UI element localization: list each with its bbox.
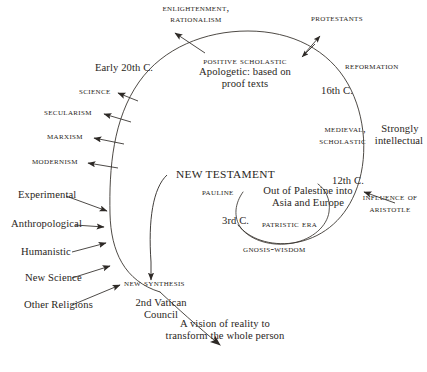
- label-vision-line1: A vision of reality to: [160, 318, 290, 330]
- label-new-science: New Science: [25, 272, 82, 284]
- label-anthropological: Anthropological: [11, 218, 82, 230]
- label-16th-century: 16th C.: [321, 85, 353, 97]
- label-reformation: REFORMATION: [345, 60, 399, 72]
- label-apologetic-line1: Apologetic: based on: [182, 66, 308, 78]
- label-pauline: PAULINE: [202, 186, 234, 198]
- diagram-canvas: ENLIGHTENMENT, RATIONALISM PROTESTANTS R…: [0, 0, 427, 372]
- label-gnosis-wisdom: GNOSIS-WISDOM: [243, 243, 306, 255]
- label-vision-line2: transform the whole person: [150, 330, 300, 342]
- label-out-of-palestine-line1: Out of Palestine into: [246, 185, 370, 197]
- label-3rd-century: 3rd C.: [222, 215, 249, 227]
- label-marxism: MARXISM: [47, 130, 83, 142]
- label-modernism: MODERNISM: [32, 155, 78, 167]
- label-medieval-line1: MEDIEVAL,: [288, 123, 366, 135]
- label-early-20th-century: Early 20th C.: [95, 62, 153, 74]
- label-patristic-era: PATRISTIC ERA: [262, 218, 317, 230]
- arrows-left-inflow: [66, 196, 120, 305]
- label-new-testament: NEW TESTAMENT: [176, 168, 275, 181]
- label-secularism: SECULARISM: [44, 106, 92, 118]
- label-strongly-intellectual-line1: Strongly: [372, 123, 427, 135]
- arrows-left-outflow: [88, 93, 138, 168]
- label-science: SCIENCE: [79, 85, 111, 97]
- label-experimental: Experimental: [18, 189, 76, 201]
- label-humanistic: Humanistic: [21, 246, 71, 258]
- label-strongly-intellectual-line2: intellectual: [368, 135, 427, 147]
- label-apologetic-line2: proof texts: [182, 78, 308, 90]
- label-enlightenment-line2: RATIONALISM: [131, 13, 261, 25]
- label-2nd-vatican-line1: 2nd Vatican: [130, 297, 192, 309]
- label-other-religions: Other Religions: [24, 299, 93, 311]
- arrow-enlightenment: [175, 33, 205, 53]
- label-new-synthesis: NEW SYNTHESIS: [124, 277, 185, 289]
- label-protestants: PROTESTANTS: [311, 12, 363, 24]
- arrow-protestants: [302, 36, 320, 57]
- label-out-of-palestine-line2: Asia and Europe: [246, 197, 370, 209]
- arrow-new-testament-to-new-synthesis: [150, 175, 167, 280]
- label-medieval-line2: SCHOLASTIC: [288, 135, 366, 147]
